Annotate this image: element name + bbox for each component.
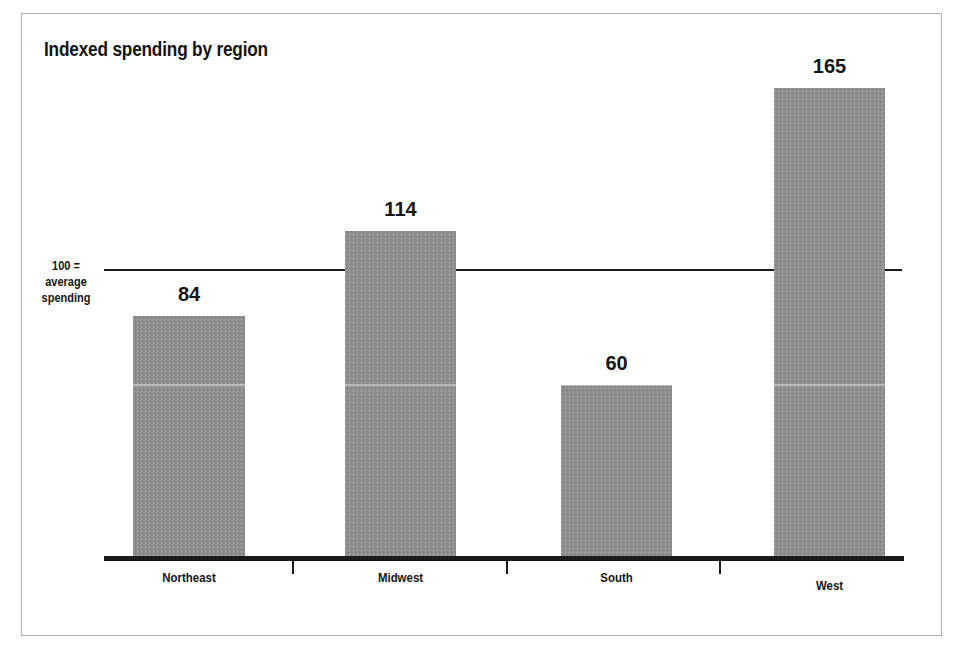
reference-label-line-2: average <box>37 274 95 290</box>
x-axis-tick-2 <box>506 561 508 574</box>
reference-label-line-1: 100 = <box>37 258 95 274</box>
x-axis-tick-3 <box>719 561 721 574</box>
x-axis-label-west: West <box>781 578 879 593</box>
bar-northeast[interactable] <box>133 316 245 559</box>
x-axis-line <box>104 556 904 561</box>
reference-line-label: 100 = average spending <box>37 258 95 306</box>
reference-label-line-3: spending <box>37 290 95 306</box>
bar-south[interactable] <box>561 385 672 559</box>
x-axis-label-midwest: Midwest <box>352 570 450 585</box>
bar-value-northeast: 84 <box>133 283 245 306</box>
plot-area: 100 = average spending 84 114 60 165 Nor… <box>0 0 968 663</box>
bar-midwest[interactable] <box>345 231 456 559</box>
bar-value-west: 165 <box>774 55 885 78</box>
bar-value-south: 60 <box>561 352 672 375</box>
bar-value-midwest: 114 <box>345 198 456 221</box>
chart-figure: Indexed spending by region 100 = average… <box>0 0 968 663</box>
x-axis-label-south: South <box>568 570 666 585</box>
bar-west[interactable] <box>774 88 885 559</box>
x-axis-tick-1 <box>292 561 294 574</box>
x-axis-label-northeast: Northeast <box>140 570 239 585</box>
